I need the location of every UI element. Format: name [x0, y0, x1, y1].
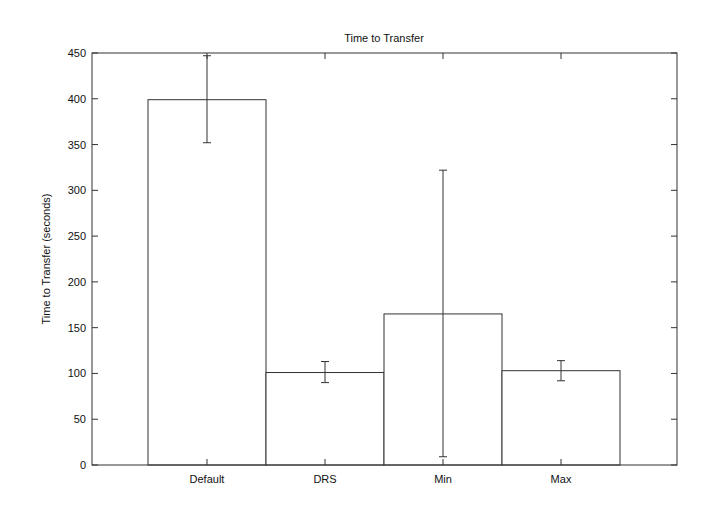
bar-chart: Time to Transfer Time to Transfer (secon… [0, 0, 712, 511]
y-tick-label: 100 [68, 367, 86, 379]
y-tick-label: 350 [68, 139, 86, 151]
x-tick-label: Min [434, 473, 452, 485]
x-tick-label: DRS [313, 473, 336, 485]
y-tick-label: 50 [74, 413, 86, 425]
y-tick-label: 0 [80, 459, 86, 471]
bar-drs [266, 373, 384, 465]
y-tick-label: 450 [68, 47, 86, 59]
bar-default [148, 100, 266, 465]
y-tick-label: 400 [68, 93, 86, 105]
bar-max [502, 371, 620, 465]
chart-title: Time to Transfer [344, 32, 424, 44]
y-axis-label: Time to Transfer (seconds) [40, 193, 52, 324]
bars [148, 100, 620, 465]
x-tick-label: Default [190, 473, 225, 485]
y-tick-label: 250 [68, 230, 86, 242]
y-tick-label: 150 [68, 322, 86, 334]
y-tick-label: 200 [68, 276, 86, 288]
x-tick-label: Max [551, 473, 572, 485]
y-tick-label: 300 [68, 184, 86, 196]
